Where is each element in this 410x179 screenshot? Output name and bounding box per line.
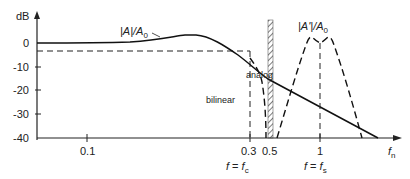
analog-label: analog [246,70,273,80]
analog-curve-label: |A|/A0 [120,25,148,40]
y-tick-label: 0 [23,37,29,49]
bilinear-label: bilinear [206,95,235,105]
aliased-curve-label: |A'|/A0 [298,20,329,35]
x-tick-label: 0.5 [262,145,277,157]
x-axis-label: fn [388,145,396,160]
x-tick-label: 0.1 [80,145,95,157]
x-tick-label: 0.3 [241,145,256,157]
y-tick-label: -10 [13,61,29,73]
y-axis-label: dB [16,10,29,22]
x-axis [37,135,402,141]
y-tick-label: -30 [13,108,29,120]
analog-label-leader [152,33,160,37]
y-axis [34,11,40,140]
y-tick-label: -20 [13,84,29,96]
y-ticks [35,67,41,114]
analog-curve [37,35,378,138]
frequency-response-chart: dB 0 -10 -20 -30 -40 0.1 0.3 0.5 1 fn f … [0,0,410,179]
fc-label: f = fc [226,160,249,175]
y-tick-label: -40 [13,132,29,144]
fs-label: f = fs [304,160,327,175]
x-tick-label: 1 [317,145,323,157]
